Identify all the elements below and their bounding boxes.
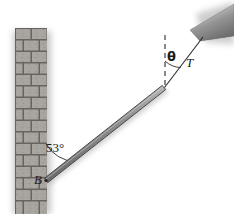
angle-label-theta: θ bbox=[167, 50, 176, 63]
ceiling-bracket bbox=[190, 2, 234, 44]
hinge-marker bbox=[44, 179, 47, 182]
angle-label-53: 53° bbox=[46, 141, 64, 154]
brick-wall bbox=[15, 28, 47, 214]
beam bbox=[44, 85, 166, 183]
physics-figure: 53° B θ T bbox=[0, 0, 234, 214]
tension-label-t: T bbox=[186, 56, 193, 69]
hinge-label-b: B bbox=[34, 173, 42, 186]
